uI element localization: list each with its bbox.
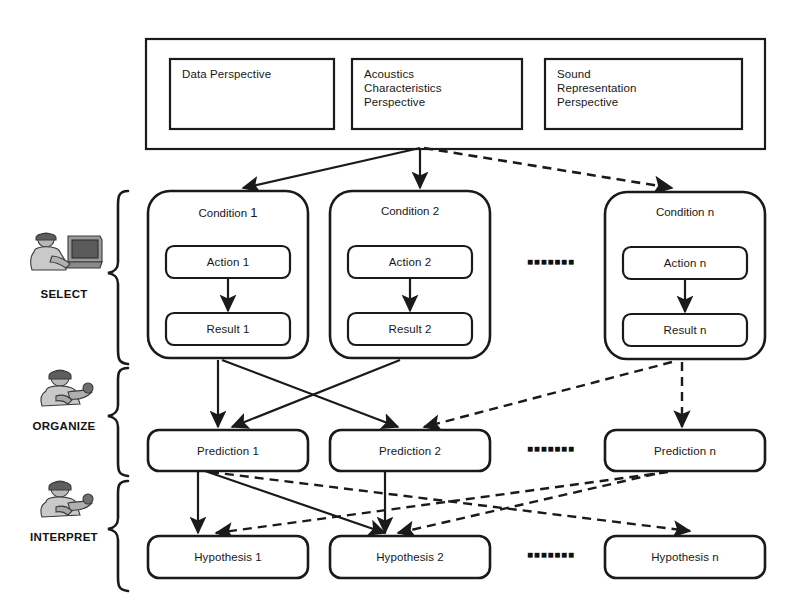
condition-n-title: Condition n xyxy=(605,206,765,218)
perspective-box-1-label: Data Perspective xyxy=(182,67,330,81)
person-at-computer-icon xyxy=(22,228,108,278)
stage-label-interpret: INTERPRET xyxy=(4,531,124,543)
predictions-row-ellipsis: ■ ■ ■ ■ ■ ■ ■ xyxy=(495,442,605,456)
result-n-label: Result n xyxy=(623,323,747,337)
condition-2-title-prefix: Condition xyxy=(381,205,430,217)
action-1-label: Action 1 xyxy=(166,255,290,269)
hypothesis-2-label: Hypothesis 2 xyxy=(330,550,490,564)
prediction-2-label: Prediction 2 xyxy=(330,444,490,458)
result-1-label: Result 1 xyxy=(166,322,290,336)
stage-label-organize: ORGANIZE xyxy=(6,420,122,432)
result-2-label: Result 2 xyxy=(348,322,472,336)
conditions-row-ellipsis: ■ ■ ■ ■ ■ ■ ■ xyxy=(495,255,605,269)
action-n-label: Action n xyxy=(623,256,747,270)
person-with-tools-icon-interpret xyxy=(30,477,100,525)
condition-n-title-index: n xyxy=(708,206,714,218)
condition-2-title-index: 2 xyxy=(433,205,439,217)
diagram-canvas: Data Perspective Acoustics Characteristi… xyxy=(0,0,801,611)
condition-1-title-prefix: Condition xyxy=(198,207,247,219)
condition-1-title: Condition 1 xyxy=(148,205,308,220)
result-to-prediction-arrows xyxy=(218,360,682,427)
perspective-to-condition-arrows xyxy=(243,148,672,188)
condition-n-title-prefix: Condition xyxy=(656,206,705,218)
action-2-label: Action 2 xyxy=(348,255,472,269)
perspective-box-3-label: Sound Representation Perspective xyxy=(557,67,737,109)
condition-1-title-index: 1 xyxy=(250,205,257,220)
condition-2-title: Condition 2 xyxy=(330,205,490,217)
perspective-box-2-label: Acoustics Characteristics Perspective xyxy=(364,67,516,109)
prediction-to-hypothesis-arrows xyxy=(198,471,690,533)
hypotheses-row-ellipsis: ■ ■ ■ ■ ■ ■ ■ xyxy=(495,548,605,562)
prediction-1-label: Prediction 1 xyxy=(148,444,308,458)
hypothesis-1-label: Hypothesis 1 xyxy=(148,550,308,564)
stage-label-select: SELECT xyxy=(12,288,116,300)
person-with-tools-icon-organize xyxy=(30,366,100,414)
hypothesis-n-label: Hypothesis n xyxy=(605,550,765,564)
prediction-n-label: Prediction n xyxy=(605,444,765,458)
